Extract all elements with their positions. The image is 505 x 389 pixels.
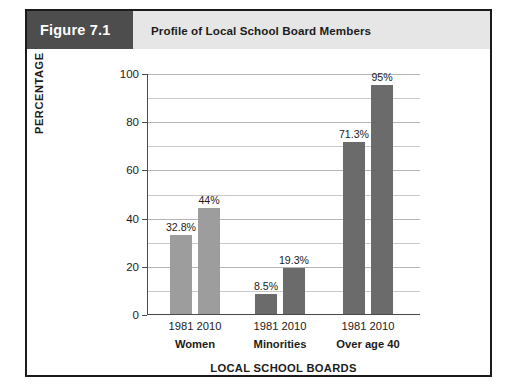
x-tick-label: 2010 bbox=[197, 320, 222, 332]
y-tick-label: 80 bbox=[126, 116, 139, 128]
figure-container: Figure 7.1 Profile of Local School Board… bbox=[25, 9, 492, 377]
x-tick-label: 1981 bbox=[169, 320, 194, 332]
bar: 19.3% bbox=[283, 268, 305, 315]
y-tick-mark bbox=[142, 122, 147, 123]
bar-value-label: 19.3% bbox=[279, 254, 309, 266]
bar: 8.5% bbox=[255, 294, 277, 314]
x-tick-label: 1981 bbox=[342, 320, 367, 332]
figure-header: Figure 7.1 Profile of Local School Board… bbox=[27, 11, 490, 49]
chart-canvas: PERCENTAGE 020406080100 32.8%44%8.5%19.3… bbox=[27, 49, 490, 375]
x-axis-title: LOCAL SCHOOL BOARDS bbox=[147, 362, 420, 374]
group-label: Minorities bbox=[254, 338, 307, 350]
figure-number-label: Figure 7.1 bbox=[27, 11, 133, 49]
y-tick-label: 60 bbox=[126, 164, 139, 176]
group-label: Over age 40 bbox=[336, 338, 399, 350]
y-tick-label: 100 bbox=[120, 68, 139, 80]
bar-value-label: 71.3% bbox=[339, 128, 369, 140]
y-tick-mark bbox=[142, 170, 147, 171]
bar: 71.3% bbox=[343, 142, 365, 314]
y-tick-label: 40 bbox=[126, 213, 139, 225]
y-tick-mark bbox=[142, 219, 147, 220]
bar-value-label: 32.8% bbox=[166, 221, 196, 233]
figure-title: Profile of Local School Board Members bbox=[133, 11, 490, 49]
plot-area: 020406080100 32.8%44%8.5%19.3%71.3%95% 1… bbox=[147, 74, 420, 315]
y-axis-line bbox=[147, 74, 148, 315]
bar-value-label: 44% bbox=[198, 194, 219, 206]
bar-value-label: 95% bbox=[371, 71, 392, 83]
x-tick-label: 1981 bbox=[254, 320, 279, 332]
x-tick-label: 2010 bbox=[370, 320, 395, 332]
group-label: Women bbox=[175, 338, 215, 350]
y-tick-label: 0 bbox=[133, 309, 139, 321]
y-tick-mark bbox=[142, 315, 147, 316]
y-tick-mark bbox=[142, 267, 147, 268]
bar: 44% bbox=[198, 208, 220, 314]
x-tick-label: 2010 bbox=[282, 320, 307, 332]
y-tick-label: 20 bbox=[126, 261, 139, 273]
y-axis-title: PERCENTAGE bbox=[33, 52, 45, 134]
bar-value-label: 8.5% bbox=[254, 280, 278, 292]
bar: 32.8% bbox=[170, 235, 192, 314]
bar: 95% bbox=[371, 85, 393, 314]
y-tick-mark bbox=[142, 74, 147, 75]
